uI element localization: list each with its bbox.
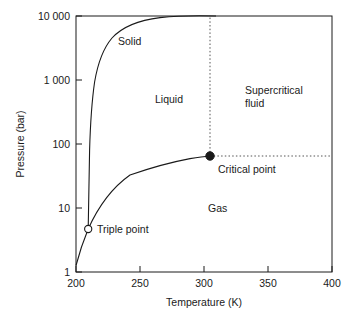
x-tick-label-300: 300	[195, 277, 213, 289]
x-axis-title: Temperature (K)	[166, 296, 242, 308]
y-tick-label-1000: 1 000	[44, 74, 70, 86]
x-tick-label-400: 400	[323, 277, 341, 289]
x-tick-label-200: 200	[67, 277, 85, 289]
critical-point-label: Critical point	[218, 163, 276, 175]
region-label-supercritical-fluid-line1: Supercritical	[245, 84, 303, 96]
triple-point-label: Triple point	[97, 223, 149, 235]
x-tick-label-350: 350	[259, 277, 277, 289]
region-label-liquid: Liquid	[155, 93, 183, 105]
phase-diagram-figure: 10 000 1 000 100 10 1 200 250 300 350 40…	[0, 0, 356, 322]
y-axis-title: Pressure (bar)	[14, 110, 26, 177]
y-tick-label-100: 100	[52, 138, 70, 150]
y-tick-label-10: 10	[58, 202, 70, 214]
region-label-gas: Gas	[208, 202, 227, 214]
x-tick-label-250: 250	[131, 277, 149, 289]
region-label-supercritical-fluid-line2: fluid	[245, 97, 264, 109]
critical-point-marker	[206, 152, 214, 160]
y-tick-label-10000: 10 000	[38, 10, 70, 22]
triple-point-marker	[85, 225, 92, 232]
region-label-solid: Solid	[118, 35, 142, 47]
phase-diagram-svg: 10 000 1 000 100 10 1 200 250 300 350 40…	[0, 0, 356, 322]
